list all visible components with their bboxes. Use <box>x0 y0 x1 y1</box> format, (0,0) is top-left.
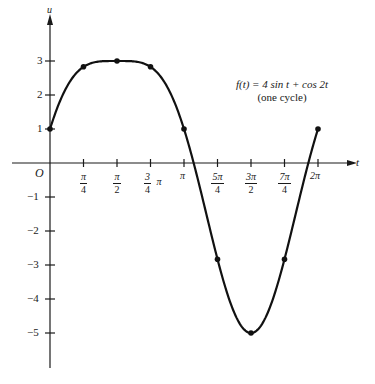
x-tick-numerator: 3π <box>245 172 257 184</box>
x-tick-label: 5π4 <box>207 172 229 195</box>
x-tick-label: 2π <box>310 170 320 181</box>
chart: u t O 321−1−2−3−4−5 π4π234ππ5π43π27π42π … <box>0 0 375 384</box>
x-tick-label: 3π2 <box>240 172 262 195</box>
x-tick-numerator: 7π <box>278 172 290 184</box>
y-tick-label: −1 <box>27 191 39 202</box>
data-point <box>81 64 87 70</box>
data-point <box>114 58 120 64</box>
data-point <box>282 256 288 262</box>
x-tick-label: 34 <box>139 172 157 195</box>
axes <box>12 14 357 368</box>
y-tick-label: 2 <box>37 89 43 100</box>
plot-area <box>0 0 375 384</box>
x-tick-denominator: 2 <box>115 184 120 195</box>
y-tick-label: −2 <box>27 225 39 236</box>
x-tick-denominator: 4 <box>282 184 287 195</box>
x-tick-numerator: 5π <box>211 172 223 184</box>
data-point <box>148 64 154 70</box>
function-note: (one cycle) <box>222 91 342 104</box>
x-tick-numerator: π <box>113 172 120 184</box>
y-axis-label: u <box>47 4 52 15</box>
x-tick-suffix: π <box>157 176 162 187</box>
x-tick-label: π <box>180 170 185 181</box>
data-point <box>315 126 321 132</box>
x-axis-label: t <box>356 157 359 168</box>
data-point <box>215 256 221 262</box>
x-tick-denominator: 4 <box>145 184 150 195</box>
y-tick-label: 1 <box>37 123 43 134</box>
x-tick-label: π2 <box>108 172 126 195</box>
data-point <box>181 126 187 132</box>
function-formula: f(t) = 4 sin t + cos 2t <box>222 78 342 91</box>
x-tick-numerator: π <box>80 172 87 184</box>
x-tick-denominator: 2 <box>249 184 254 195</box>
data-point <box>248 330 254 336</box>
x-tick-label: 7π4 <box>274 172 296 195</box>
x-tick-denominator: 4 <box>81 184 86 195</box>
data-point <box>47 126 53 132</box>
function-annotation: f(t) = 4 sin t + cos 2t (one cycle) <box>222 78 342 104</box>
y-axis-arrow-icon <box>47 14 53 25</box>
y-tick-label: 3 <box>37 55 43 66</box>
x-tick-numerator: 3 <box>144 172 151 184</box>
x-tick-denominator: 4 <box>215 184 220 195</box>
origin-label: O <box>35 168 44 179</box>
x-tick-label: π4 <box>75 172 93 195</box>
y-tick-label: −3 <box>27 259 39 270</box>
y-tick-label: −5 <box>27 327 39 338</box>
y-tick-label: −4 <box>27 293 39 304</box>
